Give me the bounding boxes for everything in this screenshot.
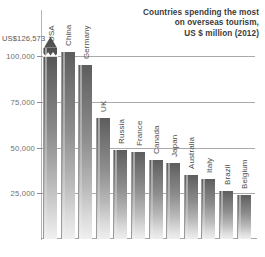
bar-slot-france[interactable]: France xyxy=(131,10,144,239)
bar-highlight xyxy=(203,179,205,239)
bar-usa[interactable] xyxy=(43,48,57,239)
category-label-france: France xyxy=(134,121,143,147)
bar-series: USAChinaGermanyUKRussiaFranceCanadaJapan… xyxy=(43,10,257,239)
bar-australia[interactable] xyxy=(184,175,198,239)
bar-russia[interactable] xyxy=(113,150,127,239)
bar-highlight xyxy=(186,175,188,239)
bar-slot-italy[interactable]: Italy xyxy=(201,10,214,239)
bar-highlight xyxy=(98,118,100,239)
bar-highlight xyxy=(151,160,153,239)
bar-slot-belgium[interactable]: Belgium xyxy=(237,10,250,239)
y-tick-100000 xyxy=(37,56,42,57)
bar-slot-australia[interactable]: Australia xyxy=(184,10,197,239)
bar-brazil[interactable] xyxy=(219,191,233,239)
category-label-italy: Italy xyxy=(204,157,213,172)
bar-slot-canada[interactable]: Canada xyxy=(149,10,162,239)
category-label-canada: Canada xyxy=(152,126,161,155)
bar-slot-russia[interactable]: Russia xyxy=(113,10,126,239)
bar-canada[interactable] xyxy=(149,160,163,239)
bar-highlight xyxy=(239,195,241,239)
category-label-brazil: Brazil xyxy=(222,165,231,186)
usa-value-callout: US$126,573 xyxy=(2,34,45,43)
category-label-japan: Japan xyxy=(169,135,178,157)
category-label-belgium: Belgium xyxy=(240,159,249,189)
bar-highlight xyxy=(168,163,170,239)
bar-slot-china[interactable]: China xyxy=(61,10,74,239)
category-label-australia: Australia xyxy=(187,137,196,169)
y-tick-25000 xyxy=(37,193,42,194)
bar-highlight xyxy=(221,191,223,239)
bar-belgium[interactable] xyxy=(237,195,251,239)
category-label-uk: UK xyxy=(99,101,108,112)
bar-uk[interactable] xyxy=(96,118,110,239)
y-axis-line xyxy=(41,10,42,240)
y-tick-label-75000: 75,000 xyxy=(11,97,35,106)
bar-slot-japan[interactable]: Japan xyxy=(166,10,179,239)
bar-highlight xyxy=(45,48,47,239)
tourism-spending-bar-chart: Countries spending the most on overseas … xyxy=(0,0,265,257)
y-tick-75000 xyxy=(37,102,42,103)
bar-italy[interactable] xyxy=(201,179,215,239)
bar-slot-uk[interactable]: UK xyxy=(96,10,109,239)
y-tick-50000 xyxy=(37,148,42,149)
y-tick-label-100000: 100,000 xyxy=(6,52,35,61)
category-label-germany: Germany xyxy=(81,26,90,60)
bar-france[interactable] xyxy=(131,152,145,239)
bar-slot-germany[interactable]: Germany xyxy=(78,10,91,239)
bar-highlight xyxy=(115,150,117,239)
bar-highlight xyxy=(80,65,82,239)
category-label-china: China xyxy=(64,25,73,46)
category-label-russia: Russia xyxy=(116,119,125,144)
bar-japan[interactable] xyxy=(166,163,180,239)
bar-slot-brazil[interactable]: Brazil xyxy=(219,10,232,239)
y-tick-label-50000: 50,000 xyxy=(11,143,35,152)
bar-slot-usa[interactable]: USA xyxy=(43,10,56,239)
bar-highlight xyxy=(133,152,135,239)
category-label-usa: USA xyxy=(46,25,55,42)
y-tick-label-25000: 25,000 xyxy=(11,189,35,198)
bar-highlight xyxy=(63,52,65,239)
bar-germany[interactable] xyxy=(78,65,92,239)
bar-china[interactable] xyxy=(61,52,75,239)
plot-area: 25,00050,00075,000100,000 USAChinaGerman… xyxy=(41,10,257,240)
